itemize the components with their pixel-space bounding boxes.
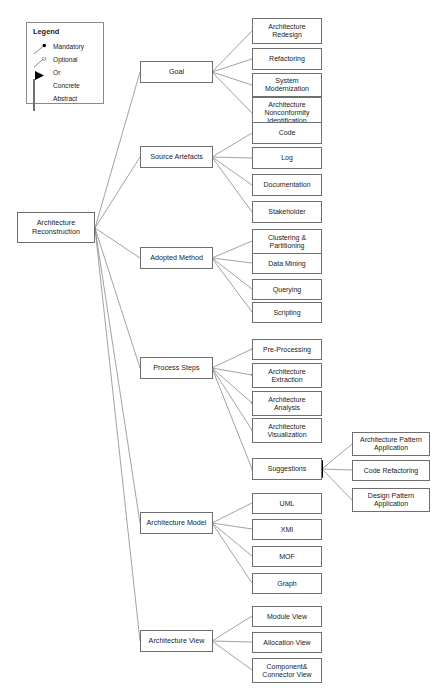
- node-label: Allocation View: [263, 639, 310, 647]
- node-refactoring[interactable]: Refactoring: [252, 48, 322, 70]
- node-label: Scripting: [273, 309, 300, 317]
- node-architecture-redesign[interactable]: Architecture Redesign: [252, 18, 322, 44]
- node-label: Architecture Redesign: [256, 23, 318, 39]
- legend-row-abstract: Abstract: [32, 92, 98, 104]
- node-label: Architecture Reconstruction: [21, 219, 91, 235]
- optional-icon: [32, 54, 50, 65]
- node-label: Architecture Extraction: [256, 368, 318, 384]
- edge-root-architecture-model: [95, 228, 140, 523]
- node-architecture-model[interactable]: Architecture Model: [140, 512, 213, 534]
- node-system-modernization[interactable]: System Modernization: [252, 73, 322, 97]
- legend-label-optional: Optional: [53, 56, 78, 63]
- node-component-connector-view[interactable]: Component& Connector View: [252, 658, 322, 683]
- node-label: Stakeholder: [268, 208, 305, 216]
- node-suggestions[interactable]: Suggestions: [252, 458, 322, 480]
- node-label: System Modernization: [256, 77, 318, 93]
- node-architecture-visualization[interactable]: Architecture Visualization: [252, 418, 322, 443]
- node-uml[interactable]: UML: [252, 493, 322, 514]
- node-label: Clustering & Partitioning: [256, 234, 318, 250]
- legend-box: Legend Mandatory Optional: [26, 22, 104, 104]
- node-pre-processing[interactable]: Pre-Processing: [252, 339, 322, 360]
- node-label: Suggestions: [268, 465, 307, 473]
- node-documentation[interactable]: Documentation: [252, 174, 322, 196]
- node-label: Adopted Method: [150, 254, 203, 262]
- legend-title: Legend: [33, 27, 98, 36]
- legend-row-or: Or: [32, 66, 98, 78]
- node-architecture-view[interactable]: Architecture View: [140, 630, 213, 652]
- concrete-box-icon: [32, 80, 50, 91]
- node-label: Source Artefacts: [150, 153, 203, 161]
- legend-row-mandatory: Mandatory: [32, 40, 98, 52]
- edge-root-source-artefacts: [95, 157, 140, 228]
- node-architecture-reconstruction[interactable]: Architecture Reconstruction: [17, 212, 95, 243]
- node-label: Log: [281, 154, 293, 162]
- node-label: Data Mining: [268, 260, 305, 268]
- node-label: Architecture Pattern Application: [356, 436, 426, 452]
- node-label: Pre-Processing: [263, 346, 311, 354]
- feature-model-diagram: Legend Mandatory Optional: [0, 0, 440, 697]
- node-code-refactoring[interactable]: Code Refactoring: [352, 460, 430, 481]
- or-icon: [32, 67, 50, 78]
- edge-root-adopted-method: [95, 228, 140, 258]
- node-label: Goal: [169, 68, 184, 76]
- node-clustering-partitioning[interactable]: Clustering & Partitioning: [252, 229, 322, 254]
- node-log[interactable]: Log: [252, 147, 322, 169]
- node-architecture-extraction[interactable]: Architecture Extraction: [252, 363, 322, 388]
- node-architecture-analysis[interactable]: Architecture Analysis: [252, 391, 322, 416]
- legend-row-optional: Optional: [32, 53, 98, 65]
- legend-label-abstract: Abstract: [53, 95, 77, 102]
- node-label: Process Steps: [153, 364, 199, 372]
- node-label: UML: [280, 500, 295, 508]
- node-source-artefacts[interactable]: Source Artefacts: [140, 146, 213, 168]
- legend-label-mandatory: Mandatory: [53, 43, 84, 50]
- node-label: Architecture Visualization: [256, 423, 318, 439]
- node-label: Code: [279, 129, 296, 137]
- legend-row-concrete: Concrete: [32, 79, 98, 91]
- mandatory-icon: [32, 41, 50, 52]
- node-label: MOF: [279, 553, 295, 561]
- node-xmi[interactable]: XMI: [252, 519, 322, 540]
- legend-label-or: Or: [53, 69, 60, 76]
- legend-label-concrete: Concrete: [53, 82, 80, 89]
- node-module-view[interactable]: Module View: [252, 606, 322, 627]
- node-querying[interactable]: Querying: [252, 279, 322, 300]
- node-label: XMI: [281, 526, 293, 534]
- node-label: Querying: [273, 286, 301, 294]
- node-goal[interactable]: Goal: [140, 61, 213, 83]
- node-process-steps[interactable]: Process Steps: [140, 357, 213, 379]
- node-scripting[interactable]: Scripting: [252, 302, 322, 323]
- node-allocation-view[interactable]: Allocation View: [252, 632, 322, 653]
- node-label: Architecture Analysis: [256, 396, 318, 412]
- node-design-pattern-application[interactable]: Design Pattern Application: [352, 488, 430, 512]
- edge-root-process-steps: [95, 228, 140, 368]
- abstract-box-icon: [32, 93, 50, 104]
- node-label: Architecture Model: [147, 519, 207, 527]
- node-stakeholder[interactable]: Stakeholder: [252, 201, 322, 223]
- node-label: Refactoring: [269, 55, 305, 63]
- node-data-mining[interactable]: Data Mining: [252, 253, 322, 274]
- node-label: Code Refactoring: [364, 467, 418, 475]
- edge-layer: [0, 0, 440, 697]
- node-label: Component& Connector View: [256, 663, 318, 679]
- node-label: Architecture View: [149, 637, 205, 645]
- node-label: Graph: [277, 580, 296, 588]
- node-architecture-pattern-application[interactable]: Architecture Pattern Application: [352, 432, 430, 456]
- node-mof[interactable]: MOF: [252, 546, 322, 567]
- node-label: Design Pattern Application: [356, 492, 426, 508]
- edge-root-architecture-view: [95, 228, 140, 641]
- node-graph[interactable]: Graph: [252, 573, 322, 594]
- node-adopted-method[interactable]: Adopted Method: [140, 247, 213, 269]
- node-label: Documentation: [263, 181, 310, 189]
- node-label: Module View: [267, 613, 307, 621]
- node-code[interactable]: Code: [252, 122, 322, 144]
